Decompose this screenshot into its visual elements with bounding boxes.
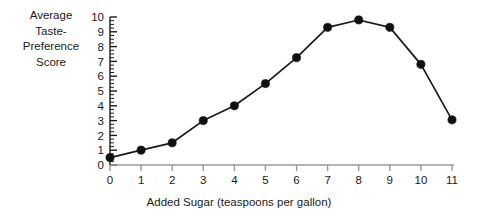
data-point-marker — [137, 146, 145, 154]
y-tick-label: 10 — [91, 11, 104, 23]
x-tick-label: 7 — [324, 174, 330, 186]
data-point-marker — [355, 16, 363, 24]
x-tick-label: 4 — [231, 174, 238, 186]
data-point-marker — [386, 23, 394, 31]
y-tick-label: 9 — [98, 26, 104, 38]
x-axis: 01234567891011 — [107, 165, 458, 186]
x-tick-label: 5 — [262, 174, 268, 186]
data-point-marker — [230, 102, 238, 110]
y-tick-label: 3 — [98, 115, 104, 127]
chart-figure: Average Taste- Preference Score 01234567… — [0, 0, 478, 222]
data-point-marker — [324, 23, 332, 31]
y-tick-label: 5 — [98, 85, 104, 97]
data-point-marker — [199, 117, 207, 125]
data-point-marker — [261, 80, 269, 88]
x-tick-label: 11 — [446, 174, 458, 186]
data-point-marker — [168, 139, 176, 147]
x-tick-label: 8 — [356, 174, 362, 186]
y-tick-label: 1 — [98, 144, 104, 156]
data-point-marker — [106, 154, 114, 162]
data-point-marker — [417, 60, 425, 68]
x-tick-label: 1 — [138, 174, 144, 186]
x-tick-label: 10 — [415, 174, 428, 186]
y-tick-label: 6 — [98, 70, 104, 82]
y-tick-label: 7 — [98, 56, 104, 68]
y-tick-label: 0 — [98, 159, 104, 171]
data-point-marker — [448, 116, 456, 124]
y-tick-label: 8 — [98, 41, 104, 53]
x-tick-label: 9 — [387, 174, 393, 186]
x-tick-label: 0 — [107, 174, 113, 186]
y-tick-label: 4 — [98, 100, 105, 112]
x-tick-label: 2 — [169, 174, 175, 186]
x-tick-label: 3 — [200, 174, 206, 186]
x-tick-label: 6 — [293, 174, 299, 186]
data-series — [106, 16, 456, 162]
y-tick-label: 2 — [98, 130, 104, 142]
data-point-marker — [292, 54, 300, 62]
y-axis: 012345678910 — [91, 11, 117, 171]
line-chart-plot: 012345678910 01234567891011 — [0, 0, 478, 222]
x-axis-label: Added Sugar (teaspoons per gallon) — [0, 196, 478, 208]
series-line — [110, 20, 452, 158]
